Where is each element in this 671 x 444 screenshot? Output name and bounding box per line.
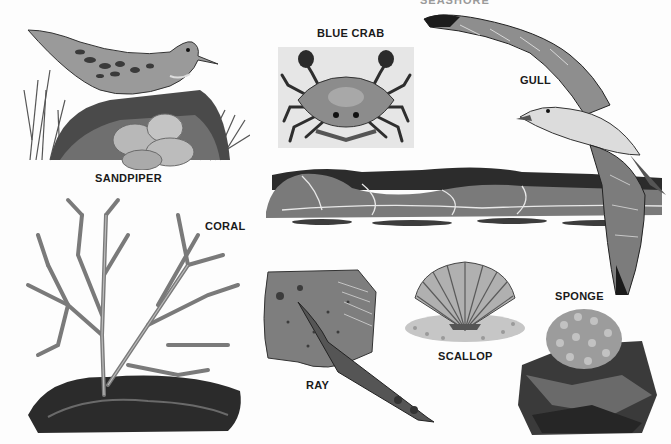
scallop-label: SCALLOP [438, 351, 493, 362]
scallop-illustration [403, 258, 528, 343]
sponge-label: SPONGE [555, 291, 604, 302]
sponge-illustration [512, 305, 662, 440]
blue-crab-illustration [276, 45, 416, 150]
blue-crab-label: BLUE CRAB [317, 28, 384, 39]
gull-illustration [420, 5, 671, 295]
illustration-plate: SEASHORE SANDPIPER [0, 0, 671, 444]
gull-label: GULL [520, 75, 551, 86]
ray-label: RAY [306, 380, 329, 391]
coral-label: CORAL [205, 221, 246, 232]
sandpiper-label: SANDPIPER [95, 173, 162, 184]
sandpiper-illustration [20, 20, 250, 170]
